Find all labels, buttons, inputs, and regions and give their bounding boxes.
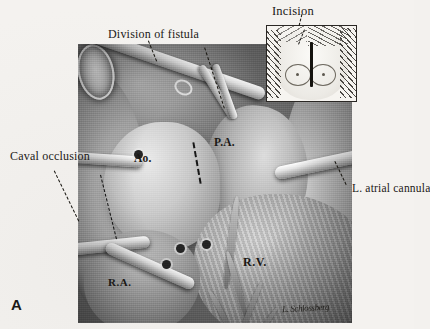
- label-division-of-fistula: Division of fistula: [108, 27, 199, 42]
- nipple-mark-right: [322, 73, 325, 76]
- sternotomy-incision-line: [310, 42, 313, 87]
- label-pulmonary-artery: P.A.: [214, 136, 235, 148]
- label-right-atrium: R.A.: [108, 276, 131, 288]
- suture-knot: [202, 240, 211, 249]
- incision-inset-diagram: [266, 25, 357, 102]
- label-caval-occlusion: Caval occlusion: [10, 150, 88, 163]
- panel-letter: A: [11, 296, 22, 313]
- label-incision: Incision: [272, 4, 314, 19]
- leader-line-caval-occlusion: [54, 171, 79, 222]
- label-right-ventricle: R.V.: [243, 255, 267, 270]
- label-aorta: Ao.: [134, 152, 152, 164]
- hatching-top-right: [308, 26, 348, 46]
- suture-knot: [176, 244, 185, 253]
- suture-knot: [162, 260, 171, 269]
- label-left-atrial-cannula: L. atrial cannula: [352, 182, 430, 195]
- nipple-mark-left: [296, 73, 299, 76]
